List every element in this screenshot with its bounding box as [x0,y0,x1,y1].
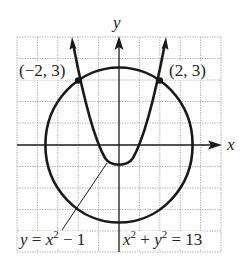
point-label-right: (2, 3) [168,62,207,80]
circle-equation-label: x2 + y2 = 13 [122,231,203,249]
circle-plus: + [140,230,150,249]
parabola-tail: − 1 [63,230,85,249]
x-axis-label: x [226,136,236,154]
y-axis-label: y [112,14,122,32]
parabola-equation-label: y = x2 − 1 [19,231,86,249]
circle-term2-base: y [154,230,162,249]
graph [0,0,243,264]
parabola-lhs: y [20,230,28,249]
circle-term1-base: x [123,230,131,249]
circle-term1-exp: 2 [131,228,137,240]
intersection-point-left [75,77,82,84]
parabola-exponent: 2 [53,228,59,240]
point-label-left: (−2, 3) [18,62,66,80]
intersection-point-right [157,77,164,84]
equals-sign: = [32,230,42,249]
circle-term2-exp: 2 [162,228,168,240]
circle-value: 13 [185,230,202,249]
circle-equals: = [171,230,181,249]
